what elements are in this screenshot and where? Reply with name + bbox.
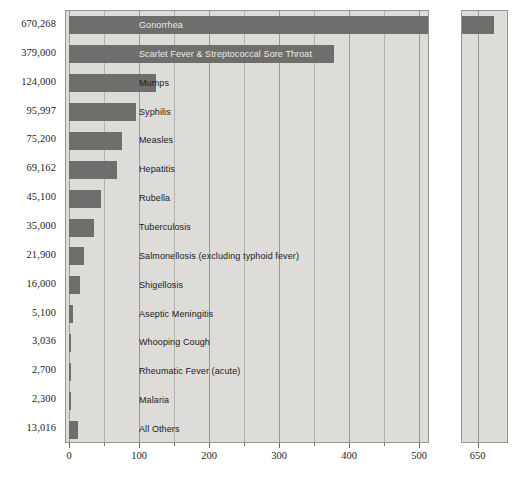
gridline-minor xyxy=(314,11,315,442)
bar xyxy=(69,392,71,410)
gridline-minor xyxy=(244,11,245,442)
x-axis-tick xyxy=(174,443,175,446)
gridline-major xyxy=(478,11,479,442)
x-axis-tick xyxy=(244,443,245,446)
value-label-column: 670,268379,000124,00095,99775,20069,1624… xyxy=(0,10,62,443)
bar xyxy=(69,247,84,265)
series-label: Tuberculosis xyxy=(139,222,191,232)
bar xyxy=(69,16,428,34)
value-label: 13,016 xyxy=(0,422,56,433)
bar xyxy=(69,305,73,323)
value-label: 16,000 xyxy=(0,278,56,289)
bar xyxy=(69,334,71,352)
x-axis-tick xyxy=(314,443,315,446)
x-axis-tick xyxy=(279,443,280,448)
value-label: 670,268 xyxy=(0,18,56,29)
bar xyxy=(69,161,117,179)
bar xyxy=(69,132,122,150)
value-label: 95,997 xyxy=(0,105,56,116)
bar-chart: 670,268379,000124,00095,99775,20069,1624… xyxy=(0,0,513,478)
series-label: Aseptic Meningitis xyxy=(139,309,213,319)
value-label: 45,100 xyxy=(0,191,56,202)
series-label: Malaria xyxy=(139,395,169,405)
x-axis-tick-label: 500 xyxy=(411,450,427,461)
bar-continuation-gonorrhea xyxy=(462,16,494,34)
series-label: Rheumatic Fever (acute) xyxy=(139,366,240,376)
series-label: Syphilis xyxy=(139,107,171,117)
series-label: Rubella xyxy=(139,193,170,203)
x-axis-tick-label: 300 xyxy=(271,450,287,461)
x-axis-tick-label: 200 xyxy=(201,450,217,461)
x-axis-tick xyxy=(349,443,350,448)
bar xyxy=(69,103,136,121)
bar xyxy=(69,190,101,208)
x-axis-tick-label: 400 xyxy=(341,450,357,461)
x-axis-tick xyxy=(384,443,385,446)
value-label: 124,000 xyxy=(0,76,56,87)
value-label: 69,162 xyxy=(0,162,56,173)
series-label: Measles xyxy=(139,135,173,145)
x-axis-tick-label: 100 xyxy=(131,450,147,461)
bar xyxy=(69,276,80,294)
value-label: 21,900 xyxy=(0,249,56,260)
gridline-major xyxy=(419,11,420,442)
gridline-minor xyxy=(384,11,385,442)
series-label: Gonorrhea xyxy=(139,20,183,30)
value-label: 3,036 xyxy=(0,335,56,346)
series-label: Whooping Cough xyxy=(139,337,210,347)
series-label: Mumps xyxy=(139,78,169,88)
gridline-major xyxy=(209,11,210,442)
break-plot-area xyxy=(462,11,507,442)
series-label: Shigellosis xyxy=(139,280,183,290)
gridline-major xyxy=(279,11,280,442)
value-label: 5,100 xyxy=(0,307,56,318)
x-axis-tick xyxy=(104,443,105,446)
x-axis-tick-label: 0 xyxy=(66,450,71,461)
series-label: Salmonellosis (excluding typhoid fever) xyxy=(139,251,299,261)
series-label: Scarlet Fever & Streptococcal Sore Throa… xyxy=(139,49,312,59)
bar xyxy=(69,421,78,439)
main-plot-area: GonorrheaScarlet Fever & Streptococcal S… xyxy=(66,11,428,442)
value-label: 2,300 xyxy=(0,393,56,404)
value-label: 379,000 xyxy=(0,47,56,58)
gridline-major xyxy=(349,11,350,442)
x-axis-tick-label-break: 650 xyxy=(470,450,486,461)
x-axis-tick xyxy=(139,443,140,448)
x-axis-tick xyxy=(209,443,210,448)
break-plot-panel xyxy=(461,10,508,443)
x-axis-tick-break xyxy=(478,443,479,448)
x-axis-tick xyxy=(419,443,420,448)
series-label: All Others xyxy=(139,424,180,434)
bar xyxy=(69,363,71,381)
x-axis-tick xyxy=(69,443,70,448)
main-plot-panel: GonorrheaScarlet Fever & Streptococcal S… xyxy=(65,10,429,443)
value-label: 2,700 xyxy=(0,364,56,375)
value-label: 35,000 xyxy=(0,220,56,231)
value-label: 75,200 xyxy=(0,133,56,144)
bar xyxy=(69,219,94,237)
series-label: Hepatitis xyxy=(139,164,175,174)
